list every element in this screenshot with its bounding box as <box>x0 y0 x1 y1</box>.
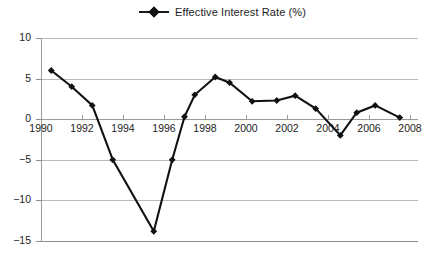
series-polyline <box>51 71 400 232</box>
data-point-2007.5 <box>396 114 403 121</box>
series-effective-interest-rate <box>0 0 445 257</box>
series-markers <box>48 67 403 235</box>
interest-rate-line-chart: Effective Interest Rate (%) 1050−5−10−15… <box>0 0 445 257</box>
data-point-1997 <box>181 113 188 120</box>
data-point-2006.3 <box>372 102 379 109</box>
data-point-2001.5 <box>273 97 280 104</box>
data-point-1996.4 <box>169 156 176 163</box>
plot-area: 1050−5−10−15 199019921994199619982000200… <box>0 0 445 257</box>
